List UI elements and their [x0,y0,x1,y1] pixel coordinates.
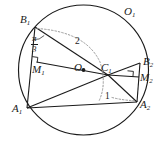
label-circle-o1: O1 [124,6,135,18]
angle-label-pi-over-3: π 3 [31,34,38,55]
right-angle-mark-m1 [32,57,38,63]
segment-a1-a2 [27,102,137,108]
label-center-o: O [74,62,82,73]
center-point-o [82,68,86,72]
label-a2: A2 [140,99,150,111]
angle-numerator: π [31,34,38,43]
segment-c1-m2 [108,75,139,77]
label-b2: B2 [143,56,153,68]
label-arc-1: 1 [105,92,110,102]
label-m1: M1 [32,64,45,76]
geometry-diagram: O1 B1 A1 M1 O C1 B2 M2 A2 2 1 π 3 [0,0,165,142]
label-m2: M2 [140,72,153,84]
dotted-arc-1 [112,98,134,101]
label-a1: A1 [12,103,22,115]
label-arc-2: 2 [75,37,80,47]
segment-b1-c1 [35,27,108,75]
angle-denominator: 3 [31,45,38,54]
segment-a1-c1 [27,75,108,108]
label-b1: B1 [20,14,30,26]
segment-c1-b2 [108,63,140,75]
label-c1: C1 [101,62,112,74]
